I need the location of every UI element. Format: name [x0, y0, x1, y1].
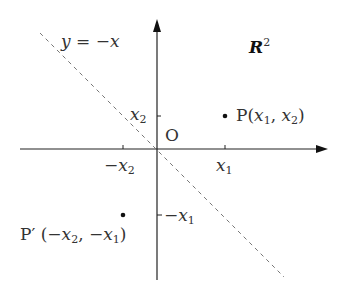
line-label-text: y = −x [61, 31, 120, 51]
space-label-exp: 2 [263, 36, 270, 49]
point-p-prime [121, 213, 126, 218]
point-name: P′ [20, 224, 35, 244]
coord-var: x [254, 105, 264, 125]
coord-sub: 1 [113, 233, 120, 246]
point-p-prime-label: P′ (−x2, −x1) [20, 226, 127, 245]
paren: ) [298, 105, 305, 125]
origin-text: O [165, 125, 179, 145]
point-p-label: P(x1, x2) [236, 107, 305, 126]
tick-var: x [178, 205, 188, 225]
tick-sub: 1 [226, 164, 233, 177]
tick-label-x-pos: x1 [216, 157, 233, 176]
coord-sign: − [47, 224, 61, 244]
tick-sign: − [164, 205, 178, 225]
tick-sub: 2 [128, 164, 135, 177]
tick-var: x [216, 155, 226, 175]
space-label: R2 [249, 37, 270, 56]
tick-label-x-neg: −x2 [104, 157, 135, 176]
tick-label-y-pos: x2 [130, 106, 147, 125]
line-label: y = −x [61, 33, 120, 50]
tick-var: x [130, 104, 140, 124]
tick-sign: − [104, 155, 118, 175]
paren: ( [35, 224, 47, 244]
coord-var: x [103, 224, 113, 244]
coord-sign: − [89, 224, 103, 244]
separator: , [78, 224, 89, 244]
tick-sub: 1 [188, 214, 195, 227]
origin-label: O [165, 127, 179, 144]
tick-label-y-neg: −x1 [164, 207, 195, 226]
y-axis-arrow-icon [153, 19, 161, 32]
separator: , [271, 105, 282, 125]
coordinate-plane [0, 0, 346, 290]
tick-sub: 2 [140, 113, 147, 126]
coord-var: x [282, 105, 292, 125]
tick-var: x [118, 155, 128, 175]
coord-sub: 1 [264, 114, 271, 127]
space-label-base: R [249, 37, 263, 57]
paren: ) [120, 224, 127, 244]
point-p [223, 114, 228, 119]
x-axis-arrow-icon [316, 145, 328, 153]
point-name: P [236, 105, 247, 125]
coord-var: x [62, 224, 72, 244]
